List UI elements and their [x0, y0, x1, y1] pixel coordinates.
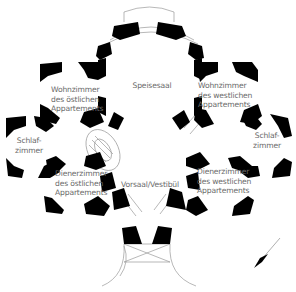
room-label-vorsaal: Vorsaal/Vestibül — [118, 180, 182, 190]
room-label-dienerzimmer-west: Dienerzimmer des westlichen Appartements — [197, 167, 251, 196]
room-label-line: zimmer — [252, 141, 282, 151]
room-label-line: des westlichen — [197, 177, 251, 187]
room-label-line: des westlichen — [198, 91, 252, 101]
room-label-line: Dienerzimmer — [197, 167, 251, 177]
room-label-schlafzimmer-ost: Schlaf- zimmer — [14, 136, 44, 155]
room-label-line: Schlaf- — [252, 131, 282, 141]
room-label-speisesaal: Speisesaal — [128, 81, 176, 91]
room-label-dienerzimmer-ost: Dienerzimmer des östlichen Appartements — [55, 169, 107, 198]
walls — [6, 22, 292, 244]
room-label-line: des östlichen — [55, 179, 107, 189]
room-label-line: Dienerzimmer — [55, 169, 107, 179]
room-label-line: Appartements — [51, 104, 103, 114]
room-label-line: Wohnzimmer — [198, 81, 252, 91]
room-label-wohnzimmer-west: Wohnzimmer des westlichen Appartements — [198, 81, 252, 110]
room-label-line: des östlichen — [51, 95, 103, 105]
north-arrow-icon — [254, 238, 280, 268]
room-label-schlafzimmer-west: Schlaf- zimmer — [252, 131, 282, 150]
room-label-line: Vorsaal/Vestibül — [118, 180, 182, 190]
room-label-line: Schlaf- — [14, 136, 44, 146]
room-label-line: zimmer — [14, 146, 44, 156]
room-label-line: Speisesaal — [128, 81, 176, 91]
room-label-line: Wohnzimmer — [51, 85, 103, 95]
room-label-line: Appartements — [197, 186, 251, 196]
room-label-line: Appartements — [55, 188, 107, 198]
room-label-line: Appartements — [198, 100, 252, 110]
room-label-wohnzimmer-ost: Wohnzimmer des östlichen Appartements — [51, 85, 103, 114]
